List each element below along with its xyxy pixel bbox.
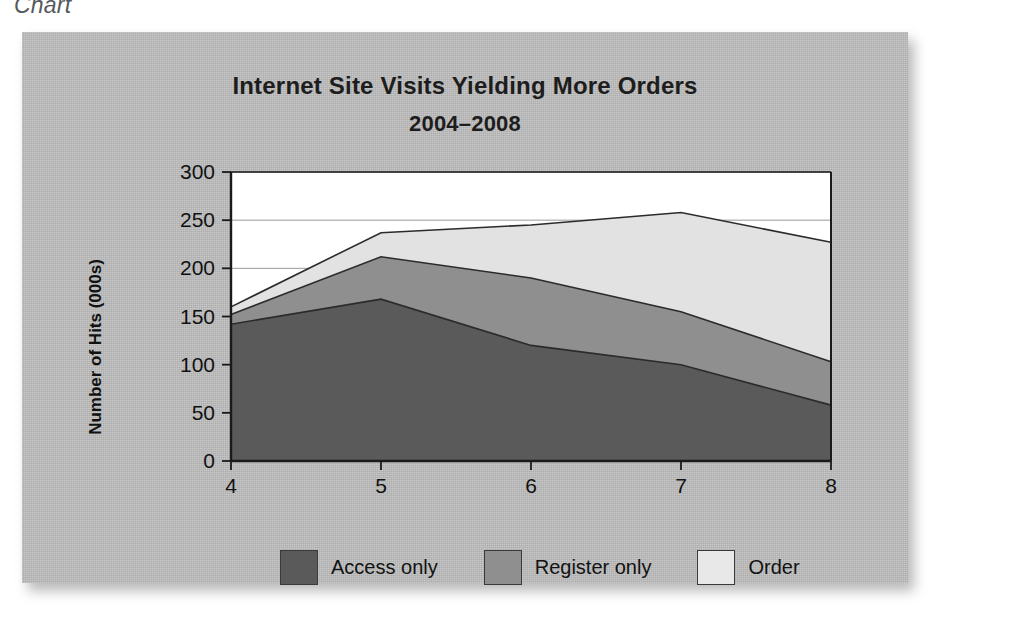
svg-text:5: 5	[375, 474, 387, 497]
svg-text:7: 7	[675, 474, 687, 497]
figure-caption: Chart	[14, 0, 71, 19]
svg-text:8: 8	[825, 474, 837, 497]
svg-text:6: 6	[525, 474, 537, 497]
legend-swatch-order	[697, 550, 735, 585]
svg-text:4: 4	[225, 474, 237, 497]
plot-area: 05010015020025030045678	[22, 32, 908, 583]
svg-text:100: 100	[180, 353, 215, 376]
svg-text:250: 250	[180, 208, 215, 231]
chart-panel: Internet Site Visits Yielding More Order…	[22, 32, 908, 583]
legend-swatch-register-only	[484, 550, 522, 585]
svg-text:300: 300	[180, 160, 215, 183]
legend-swatch-access-only	[280, 550, 318, 585]
svg-text:0: 0	[203, 449, 215, 472]
svg-text:150: 150	[180, 305, 215, 328]
legend-label-register-only: Register only	[535, 556, 652, 579]
svg-text:50: 50	[192, 401, 215, 424]
svg-text:200: 200	[180, 256, 215, 279]
area-chart-svg: 05010015020025030045678	[22, 32, 908, 583]
legend-label-order: Order	[748, 556, 799, 579]
legend-item: Register only	[484, 550, 652, 585]
chart-legend: Access only Register only Order	[280, 550, 880, 585]
legend-item: Access only	[280, 550, 438, 585]
legend-label-access-only: Access only	[331, 556, 438, 579]
legend-item: Order	[697, 550, 799, 585]
